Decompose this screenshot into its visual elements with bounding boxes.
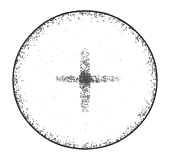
- figure-container: Stippled circular aperture with central …: [0, 0, 170, 161]
- stipple-figure-canvas: [0, 0, 170, 161]
